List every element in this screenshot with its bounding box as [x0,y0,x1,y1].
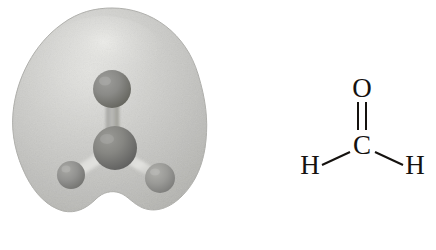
specular-oxygen [99,77,111,86]
specular-hydrogen-left [62,166,71,173]
atom-sphere-oxygen [93,70,131,108]
formula-atom-carbon: C [353,130,371,160]
structural-formula-svg: O C H H [218,0,436,250]
structural-formula-panel: O C H H [218,0,436,250]
specular-carbon [100,134,114,144]
atom-sphere-carbon [93,126,137,170]
formula-atom-oxygen: O [352,73,372,103]
formaldehyde-figure: O C H H [0,0,436,250]
atom-sphere-hydrogen-left [57,161,85,189]
formula-atom-hydrogen-left: H [300,150,320,180]
molecular-model-svg [0,0,218,250]
single-bond-line-c-h-right [375,152,403,165]
atom-sphere-hydrogen-right [145,163,175,193]
formula-atom-hydrogen-right: H [405,150,425,180]
single-bond-line-c-h-left [322,152,350,165]
specular-hydrogen-right [150,169,160,176]
molecular-model-panel [0,0,218,250]
